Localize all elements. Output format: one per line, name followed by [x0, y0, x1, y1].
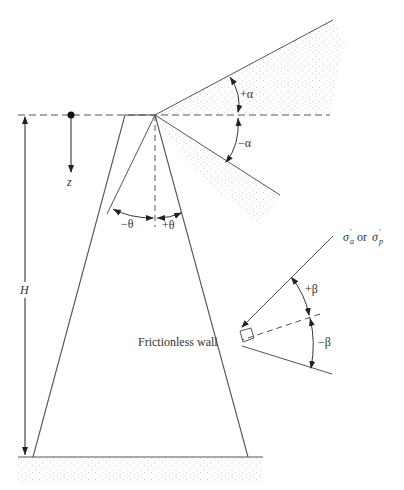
stress-label: σ ′ a or σ ′ p	[343, 228, 383, 246]
z-label: z	[66, 175, 72, 189]
ground-soil	[18, 457, 263, 483]
minus-theta-label: −θ	[121, 217, 134, 231]
svg-text:′: ′	[350, 228, 352, 237]
svg-text:σ: σ	[372, 230, 379, 244]
plus-alpha-label: +α	[240, 87, 254, 101]
height-label: H	[19, 283, 30, 297]
minus-beta-line	[242, 346, 332, 374]
plus-theta-label: +θ	[162, 218, 175, 232]
minus-beta-arc	[310, 318, 313, 368]
backfill-soil-negative-slope	[155, 115, 280, 225]
negative-theta-wall-line	[107, 115, 155, 214]
minus-beta-label: −β	[318, 335, 331, 349]
svg-text:or: or	[357, 230, 367, 244]
svg-text:p: p	[378, 237, 383, 246]
svg-text:a: a	[350, 237, 354, 246]
retaining-wall-diagram: +α −α −θ +θ z H Frictionless wall +β −β …	[0, 0, 404, 490]
plus-beta-label: +β	[305, 282, 318, 296]
right-angle-marker	[240, 328, 254, 342]
frictionless-wall-label: Frictionless wall	[138, 335, 218, 349]
stress-resultant-line	[242, 236, 333, 327]
minus-alpha-label: −α	[238, 136, 252, 150]
minus-alpha-arc	[226, 118, 238, 162]
svg-text:σ: σ	[343, 230, 350, 244]
stress-direction-group	[240, 236, 333, 374]
svg-text:′: ′	[379, 228, 381, 237]
